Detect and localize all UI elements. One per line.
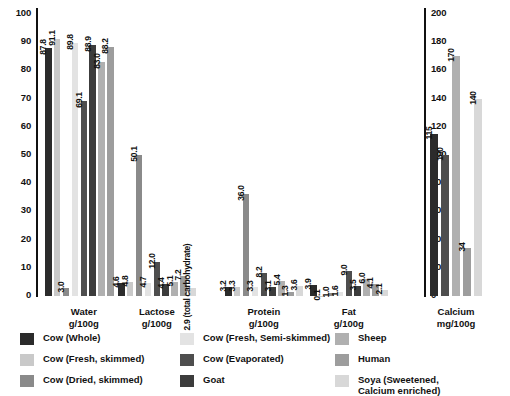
bar-value-label: 4.7 — [138, 276, 148, 287]
bar-slot: 88.2 — [107, 14, 114, 296]
left-axis-tick-0: 0 — [0, 290, 31, 299]
bar-slot: 1.0 — [328, 14, 335, 296]
legend-item[interactable]: Soya (Sweetened, Calcium enriched) — [335, 374, 440, 390]
bar-water-7[interactable]: 88.2 — [107, 47, 114, 296]
bar-group-protein: 3.23.336.03.38.23.15.41.33.6 — [225, 14, 303, 296]
bar-slot: 140 — [474, 14, 482, 296]
left-axis-tick-90: 90 — [0, 36, 31, 45]
bar-slot: 89.8 — [72, 14, 79, 296]
bar-slot: 1.6 — [337, 14, 344, 296]
bar-slot: 83.0 — [98, 14, 105, 296]
legend-column-1: Cow (Whole)Cow (Fresh, skimmed)Cow (Drie… — [20, 332, 144, 395]
legend-swatch-icon — [20, 354, 34, 366]
bar-slot: 3.5 — [354, 14, 361, 296]
bar-group-calcium: 11510017034140 — [430, 14, 482, 296]
legend-label: Soya (Sweetened, Calcium enriched) — [358, 374, 440, 396]
bar-lactose-2[interactable]: 50.1 — [136, 155, 143, 296]
right-axis-line — [424, 8, 426, 297]
bar-calcium-6[interactable]: 170 — [452, 56, 460, 296]
bar-value-label: 36.0 — [236, 186, 246, 201]
left-axis-tick-20: 20 — [0, 234, 31, 243]
bar-value-label: 3.6 — [289, 279, 299, 290]
bar-slot: 5.4 — [278, 14, 285, 296]
bar-lactose-1[interactable]: 4.8 — [127, 282, 134, 296]
bar-lactose-6[interactable]: 5.1 — [171, 282, 178, 296]
bar-value-label: 2.1 — [374, 284, 384, 295]
bar-protein-5[interactable]: 3.1 — [269, 287, 276, 296]
legend-item[interactable]: Cow (Fresh, skimmed) — [20, 353, 144, 369]
legend-item[interactable]: Human — [335, 353, 440, 369]
bar-protein-3[interactable]: 3.3 — [252, 287, 259, 296]
legend-item[interactable]: Cow (Whole) — [20, 332, 144, 348]
legend-item[interactable]: Cow (Dried, skimmed) — [20, 374, 144, 390]
bar-slot: 12.0 — [154, 14, 161, 296]
bar-water-5[interactable]: 88.9 — [89, 45, 96, 296]
bar-slot: 3.0 — [63, 14, 70, 296]
bar-value-label: 88.2 — [100, 39, 110, 54]
bar-slot: 91.1 — [54, 14, 61, 296]
bar-fat-5[interactable]: 3.5 — [354, 286, 361, 296]
bar-value-label: 5.4 — [272, 274, 282, 285]
group-caption-calcium: Calcium mg/100g — [408, 306, 504, 330]
bar-slot: 170 — [452, 14, 460, 296]
bar-value-label: 115 — [424, 126, 434, 139]
legend-item[interactable]: Sheep — [335, 332, 440, 348]
legend-swatch-icon — [180, 333, 194, 345]
bar-slot: 3.6 — [296, 14, 303, 296]
bar-value-label: 3.0 — [56, 281, 66, 292]
legend-item[interactable]: Goat — [180, 374, 330, 390]
legend-column-2: Cow (Fresh, Semi-skimmed)Cow (Evaporated… — [180, 332, 330, 395]
bar-slot: 87.8 — [45, 14, 52, 296]
bar-value-label: 12.0 — [147, 254, 157, 269]
legend-item[interactable]: Cow (Fresh, Semi-skimmed) — [180, 332, 330, 348]
bar-slot: 2.1 — [381, 14, 388, 296]
bar-value-label: 9.0 — [339, 264, 349, 275]
bar-water-3[interactable]: 89.8 — [72, 43, 79, 296]
bar-protein-7[interactable]: 1.3 — [287, 292, 294, 296]
bar-value-label: 8.2 — [254, 266, 264, 277]
legend-label: Goat — [203, 374, 225, 385]
group-caption-fat: Fat g/100g — [288, 306, 410, 330]
bar-slot: 36.0 — [243, 14, 250, 296]
plot-area: 0102030405060708090100020406080100120140… — [0, 0, 510, 330]
bar-value-label: 3.3 — [245, 280, 255, 291]
bar-water-4[interactable]: 69.1 — [81, 101, 88, 296]
left-axis-tick-10: 10 — [0, 262, 31, 271]
bar-value-label: 100 — [435, 147, 445, 160]
left-axis-tick-80: 80 — [0, 64, 31, 73]
bar-value-label: 89.8 — [65, 34, 75, 49]
bar-protein-1[interactable]: 3.3 — [234, 287, 241, 296]
bar-water-2[interactable]: 3.0 — [63, 288, 70, 296]
legend-swatch-icon — [335, 375, 349, 387]
bar-lactose-3[interactable]: 4.7 — [145, 283, 152, 296]
bar-value-label: 69.1 — [74, 92, 84, 107]
bar-slot: 5.1 — [171, 14, 178, 296]
bar-water-6[interactable]: 83.0 — [98, 62, 105, 296]
bar-slot: 0.1 — [319, 14, 326, 296]
bar-value-label: 34 — [457, 243, 467, 252]
legend-item[interactable]: Cow (Evaporated) — [180, 353, 330, 369]
bar-calcium-7[interactable]: 34 — [463, 248, 471, 296]
bar-calcium-4[interactable]: 100 — [441, 155, 449, 296]
bar-fat-3[interactable]: 1.6 — [337, 292, 344, 297]
bar-value-label: 3.3 — [227, 280, 237, 291]
legend-swatch-icon — [335, 354, 349, 366]
bar-slot: 69.1 — [81, 14, 88, 296]
bar-calcium-8[interactable]: 140 — [474, 99, 482, 296]
bar-water-0[interactable]: 87.8 — [45, 48, 52, 296]
bar-slot: 50.1 — [136, 14, 143, 296]
legend-label: Cow (Fresh, skimmed) — [43, 353, 144, 364]
bar-value-label: 1.6 — [330, 285, 340, 296]
bar-slot: 3.1 — [269, 14, 276, 296]
bar-protein-8[interactable]: 3.6 — [296, 286, 303, 296]
bar-fat-8[interactable]: 2.1 — [381, 290, 388, 296]
legend-swatch-icon — [20, 375, 34, 387]
chart-legend: Cow (Whole)Cow (Fresh, skimmed)Cow (Drie… — [0, 332, 510, 395]
bar-slot: 4.6 — [118, 14, 125, 296]
bar-water-1[interactable]: 91.1 — [54, 39, 61, 296]
bar-lactose-8[interactable]: 2.9 (total carbohydrate) — [189, 288, 196, 296]
legend-swatch-icon — [335, 333, 349, 345]
bar-slot: 3.2 — [225, 14, 232, 296]
legend-label: Human — [358, 353, 390, 364]
